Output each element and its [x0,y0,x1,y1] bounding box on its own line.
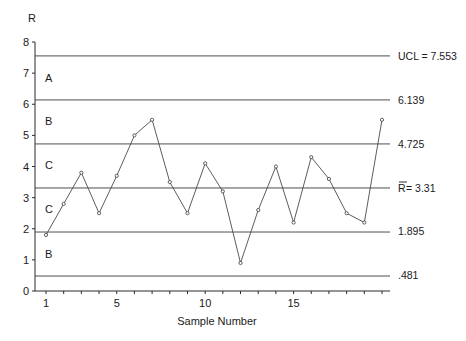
x-axis-title: Sample Number [177,315,257,327]
data-point [44,233,47,236]
y-tick-label: 8 [23,36,29,48]
upper-c-limit-label: 4.725 [398,138,424,150]
control-chart: 012345678151015 ABCCB R Sample Number UC… [0,0,466,341]
data-point [380,118,383,121]
data-point [204,162,207,165]
zone-label: C [45,159,53,171]
data-point [97,212,100,215]
y-tick-label: 7 [23,67,29,79]
y-tick-label: 4 [23,161,29,173]
y-tick-label: 2 [23,223,29,235]
data-point [345,212,348,215]
x-tick-label: 10 [199,297,211,309]
data-point [310,156,313,159]
reference-lines [35,56,390,276]
data-point [257,208,260,211]
data-point [80,171,83,174]
x-tick-label: 1 [43,297,49,309]
data-point [168,180,171,183]
data-point [151,118,154,121]
data-point [115,174,118,177]
zone-label: B [45,248,52,260]
data-point [327,177,330,180]
data-point [133,134,136,137]
zone-label: B [45,115,52,127]
zone-label: C [45,203,53,215]
range-line [46,120,382,263]
data-point [239,261,242,264]
y-tick-label: 3 [23,192,29,204]
lower-b-limit-label: .481 [398,269,419,281]
ucl-label: UCL = 7.553 [398,50,457,62]
upper-b-limit-label: 6.139 [398,94,424,106]
data-point [186,212,189,215]
y-tick-label: 1 [23,254,29,266]
data-series [44,118,383,264]
zone-label: A [45,72,53,84]
center-value: = 3.31 [406,182,436,194]
center-symbol: R [398,182,406,194]
data-point [62,202,65,205]
x-tick-label: 15 [287,297,299,309]
data-point [221,190,224,193]
x-tick-label: 5 [114,297,120,309]
data-point [274,165,277,168]
data-point [363,221,366,224]
axes: 012345678151015 [23,36,390,309]
y-tick-label: 5 [23,129,29,141]
y-tick-label: 6 [23,98,29,110]
y-axis-title: R [28,12,36,24]
data-point [292,221,295,224]
lower-c-limit-label: 1.895 [398,225,424,237]
y-tick-label: 0 [23,285,29,297]
center-line-label: R = 3.31 [398,182,436,194]
